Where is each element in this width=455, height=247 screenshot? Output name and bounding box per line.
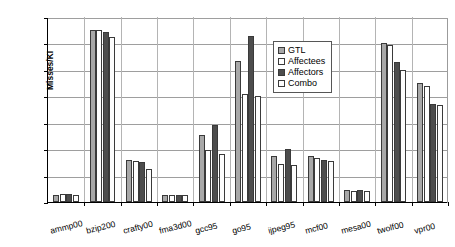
bar-gtl-gcc95 xyxy=(199,135,205,202)
x-tick-mark xyxy=(303,202,304,206)
bar-affectees-twolf00 xyxy=(387,45,393,202)
bar-gtl-bzip200 xyxy=(90,30,96,202)
bar-gtl-go95 xyxy=(235,61,241,202)
bar-affectors-mcf00 xyxy=(321,160,327,202)
bar-affectees-gcc95 xyxy=(205,150,211,202)
bar-combo-ijpeg95 xyxy=(291,165,297,202)
legend-label: Affectees xyxy=(288,57,325,66)
bar-combo-crafty00 xyxy=(146,169,152,202)
legend-swatch-icon xyxy=(278,47,285,54)
bar-gtl-mcf00 xyxy=(308,156,314,202)
bar-affectors-crafty00 xyxy=(139,162,145,202)
bar-gtl-crafty00 xyxy=(126,160,132,202)
bar-combo-vpr00 xyxy=(437,105,443,202)
legend-swatch-icon xyxy=(278,80,285,87)
x-axis-label-fma3d00: fma3d00 xyxy=(158,218,193,236)
bar-combo-twolf00 xyxy=(400,70,406,202)
bar-gtl-ijpeg95 xyxy=(271,156,277,202)
bar-group xyxy=(193,17,229,202)
bar-gtl-twolf00 xyxy=(381,43,387,202)
x-axis-label-vpr00: vpr00 xyxy=(413,221,436,236)
x-tick-mark xyxy=(230,202,231,206)
x-axis-label-ammp00: ammp00 xyxy=(49,218,84,236)
bar-affectees-crafty00 xyxy=(133,161,139,202)
legend-item[interactable]: GTL xyxy=(278,45,325,56)
bar-group xyxy=(339,17,375,202)
legend-item[interactable]: Affectees xyxy=(278,56,325,67)
bar-affectors-gcc95 xyxy=(212,125,218,202)
bar-affectors-ijpeg95 xyxy=(285,149,291,202)
bar-affectees-ijpeg95 xyxy=(278,164,284,202)
legend-item[interactable]: Combo xyxy=(278,78,325,89)
bar-affectors-vpr00 xyxy=(430,104,436,202)
x-tick-mark xyxy=(84,202,85,206)
bar-group xyxy=(157,17,193,202)
x-tick-mark xyxy=(375,202,376,206)
plot-area: Misses/KI 01234567 ammp00bzip200crafty00… xyxy=(47,18,447,203)
bar-affectees-vpr00 xyxy=(424,86,430,202)
x-axis-label-gcc95: gcc95 xyxy=(194,221,218,236)
x-axis-label-mcf00: mcf00 xyxy=(304,220,329,235)
bar-gtl-ammp00 xyxy=(53,195,59,202)
bar-group xyxy=(230,17,266,202)
legend-label: Combo xyxy=(288,79,317,88)
y-tick-mark xyxy=(44,203,48,204)
x-tick-mark xyxy=(339,202,340,206)
bar-combo-mesa00 xyxy=(364,191,370,202)
bar-affectors-bzip200 xyxy=(103,32,109,202)
bar-combo-gcc95 xyxy=(219,154,225,202)
bar-affectors-go95 xyxy=(248,36,254,203)
bar-affectees-go95 xyxy=(242,94,248,202)
bar-group xyxy=(375,17,411,202)
legend-item[interactable]: Affectors xyxy=(278,67,325,78)
x-tick-mark xyxy=(448,202,449,206)
bar-chart: Misses/KI 01234567 ammp00bzip200crafty00… xyxy=(0,0,455,247)
x-axis-label-mesa00: mesa00 xyxy=(340,219,372,236)
legend-label: GTL xyxy=(288,46,306,55)
bar-combo-ammp00 xyxy=(73,195,79,202)
bar-group xyxy=(84,17,120,202)
x-axis-label-ijpeg95: ijpeg95 xyxy=(267,219,296,235)
x-tick-mark xyxy=(157,202,158,206)
legend-swatch-icon xyxy=(278,69,285,76)
bar-combo-go95 xyxy=(255,96,261,202)
bar-affectors-mesa00 xyxy=(357,190,363,202)
bar-affectors-fma3d00 xyxy=(176,195,182,202)
bar-affectors-ammp00 xyxy=(66,194,72,202)
bar-combo-mcf00 xyxy=(328,161,334,202)
x-tick-mark xyxy=(412,202,413,206)
bar-affectees-fma3d00 xyxy=(169,195,175,202)
x-axis-label-bzip200: bzip200 xyxy=(85,219,116,236)
x-tick-mark xyxy=(121,202,122,206)
bar-affectees-bzip200 xyxy=(96,30,102,202)
chart-legend: GTLAffecteesAffectorsCombo xyxy=(273,41,332,93)
bar-group xyxy=(412,17,448,202)
x-axis-label-go95: go95 xyxy=(231,221,252,235)
bar-gtl-fma3d00 xyxy=(162,195,168,202)
bar-affectees-mesa00 xyxy=(351,191,357,202)
x-axis-label-crafty00: crafty00 xyxy=(122,219,154,236)
x-axis-label-twolf00: twolf00 xyxy=(376,219,405,235)
bar-affectees-mcf00 xyxy=(314,158,320,202)
x-tick-mark xyxy=(266,202,267,206)
bar-affectors-twolf00 xyxy=(394,62,400,202)
bar-combo-bzip200 xyxy=(109,37,115,202)
bar-combo-fma3d00 xyxy=(182,195,188,202)
bar-group xyxy=(121,17,157,202)
legend-swatch-icon xyxy=(278,58,285,65)
legend-label: Affectors xyxy=(288,68,323,77)
x-tick-mark xyxy=(193,202,194,206)
bar-gtl-mesa00 xyxy=(344,190,350,202)
bar-group xyxy=(48,17,84,202)
bar-affectees-ammp00 xyxy=(60,194,66,202)
bar-gtl-vpr00 xyxy=(417,83,423,202)
